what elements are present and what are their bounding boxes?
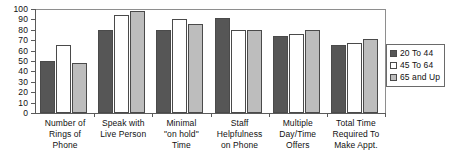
x-axis-tick-mark bbox=[327, 113, 328, 117]
bar bbox=[363, 39, 378, 113]
y-axis-tick-label: 10 bbox=[18, 98, 28, 107]
x-axis-category-label: StaffHelpfulnesson Phone bbox=[211, 118, 269, 151]
bar bbox=[215, 18, 230, 113]
category-label-line: Make Appt. bbox=[327, 140, 385, 151]
bar bbox=[98, 30, 113, 113]
y-axis-tick-labels: 0102030405060708090100 bbox=[0, 5, 28, 117]
dark-gray-swatch bbox=[390, 50, 397, 57]
bar bbox=[172, 19, 187, 113]
legend-item-label: 20 To 44 bbox=[400, 49, 433, 58]
y-axis-tick-label: 40 bbox=[18, 67, 28, 76]
legend-item-label: 65 and Up bbox=[400, 73, 440, 82]
x-axis-category-label: Speak withLive Person bbox=[94, 118, 152, 140]
bar-group bbox=[269, 9, 327, 113]
y-axis-tick-label: 100 bbox=[14, 5, 28, 14]
light-gray-swatch bbox=[390, 74, 397, 81]
grouped-bar-chart: 0102030405060708090100 Number ofRings of… bbox=[0, 0, 456, 156]
x-axis-category-labels: Number ofRings ofPhoneSpeak withLive Per… bbox=[36, 118, 385, 156]
bar bbox=[114, 15, 129, 113]
x-axis-tick-mark bbox=[385, 113, 386, 117]
y-axis-tick-label: 70 bbox=[18, 36, 28, 45]
y-axis-tick-label: 80 bbox=[18, 25, 28, 34]
category-label-line: Live Person bbox=[94, 129, 152, 140]
bar bbox=[305, 30, 320, 113]
y-axis-tick-mark bbox=[31, 92, 36, 93]
bar-group bbox=[36, 9, 94, 113]
y-axis-tick-label: 90 bbox=[18, 15, 28, 24]
bar bbox=[156, 30, 171, 113]
y-axis-tick-mark bbox=[31, 71, 36, 72]
category-label-line: Minimal bbox=[152, 118, 210, 129]
y-axis-tick-label: 20 bbox=[18, 88, 28, 97]
bar-group bbox=[211, 9, 269, 113]
x-axis-tick-mark bbox=[94, 113, 95, 117]
white-swatch bbox=[390, 62, 397, 69]
y-axis-tick-mark bbox=[31, 61, 36, 62]
bar bbox=[188, 24, 203, 113]
y-axis-tick-label: 30 bbox=[18, 77, 28, 86]
category-label-line: Number of bbox=[36, 118, 94, 129]
y-axis-tick-mark bbox=[31, 113, 36, 114]
bar bbox=[40, 61, 55, 113]
category-label-line: Rings of bbox=[36, 129, 94, 140]
category-label-line: Time bbox=[152, 140, 210, 151]
y-axis-tick-mark bbox=[31, 51, 36, 52]
chart-legend: 20 To 4445 To 6465 and Up bbox=[386, 44, 445, 87]
category-label-line: Day/Time bbox=[269, 129, 327, 140]
y-axis-tick-label: 60 bbox=[18, 46, 28, 55]
legend-item-label: 45 To 64 bbox=[400, 61, 433, 70]
category-label-line: Staff bbox=[211, 118, 269, 129]
bar bbox=[130, 11, 145, 113]
x-axis-category-label: Number ofRings ofPhone bbox=[36, 118, 94, 151]
bar bbox=[347, 43, 362, 113]
bar bbox=[56, 45, 71, 113]
bar bbox=[247, 30, 262, 113]
category-label-line: Helpfulness bbox=[211, 129, 269, 140]
x-axis-tick-mark bbox=[269, 113, 270, 117]
y-axis-tick-mark bbox=[31, 9, 36, 10]
legend-item[interactable]: 65 and Up bbox=[390, 72, 440, 83]
x-axis-category-label: Minimal"on hold"Time bbox=[152, 118, 210, 151]
x-axis-category-label: Total TimeRequired ToMake Appt. bbox=[327, 118, 385, 151]
bar-group bbox=[327, 9, 385, 113]
category-label-line: Required To bbox=[327, 129, 385, 140]
y-axis-tick-mark bbox=[31, 30, 36, 31]
bar-group bbox=[152, 9, 210, 113]
category-label-line: Speak with bbox=[94, 118, 152, 129]
bar bbox=[289, 34, 304, 113]
bar-group bbox=[94, 9, 152, 113]
category-label-line: Multiple bbox=[269, 118, 327, 129]
y-axis-tick-mark bbox=[31, 103, 36, 104]
bar bbox=[231, 30, 246, 113]
bar bbox=[331, 45, 346, 113]
bar bbox=[72, 63, 87, 113]
y-axis-tick-mark bbox=[31, 19, 36, 20]
category-label-line: on Phone bbox=[211, 140, 269, 151]
bar bbox=[273, 36, 288, 113]
x-axis-tick-mark bbox=[211, 113, 212, 117]
y-axis-tick-mark bbox=[31, 40, 36, 41]
y-axis-tick-label: 50 bbox=[18, 57, 28, 66]
y-axis-tick-label: 0 bbox=[23, 109, 28, 118]
category-label-line: "on hold" bbox=[152, 129, 210, 140]
legend-item[interactable]: 45 To 64 bbox=[390, 60, 440, 71]
legend-item[interactable]: 20 To 44 bbox=[390, 48, 440, 59]
x-axis-tick-mark bbox=[152, 113, 153, 117]
plot-area bbox=[36, 9, 385, 113]
category-label-line: Total Time bbox=[327, 118, 385, 129]
y-axis-tick-mark bbox=[31, 82, 36, 83]
category-label-line: Phone bbox=[36, 140, 94, 151]
category-label-line: Offers bbox=[269, 140, 327, 151]
x-axis-category-label: MultipleDay/TimeOffers bbox=[269, 118, 327, 151]
